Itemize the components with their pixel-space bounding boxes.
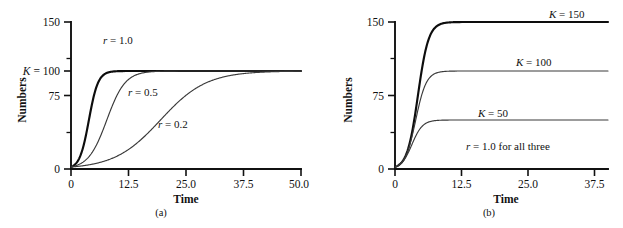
- x-ticklabel-12.5-b: 12.5: [451, 178, 471, 190]
- x-axis-title-a: Time: [173, 193, 198, 205]
- x-ticklabel-0-a: 0: [68, 178, 74, 190]
- curve-label-k-100: K = 100: [515, 56, 552, 68]
- y-ticklabel-0-b: 0: [378, 163, 384, 175]
- x-ticklabel-37.5-b: 37.5: [584, 178, 604, 190]
- x-ticklabel-25-a: 25.0: [176, 178, 196, 190]
- x-ticklabel-12.5-a: 12.5: [118, 178, 138, 190]
- x-ticklabel-37.5-a: 37.5: [233, 178, 253, 190]
- panel-a-plot: 0 75 150 K = 100 0 12.5 25.0 37.5 50.0 T…: [0, 0, 311, 228]
- y-ticklabel-150-a: 150: [43, 16, 61, 28]
- curve-label-r-0.5: r = 0.5: [128, 86, 158, 98]
- curve-label-k-50: K = 50: [477, 107, 509, 119]
- x-ticklabel-0-b: 0: [392, 178, 398, 190]
- x-axis-title-b: Time: [493, 193, 518, 205]
- k-level-label-a: K = 100: [22, 65, 60, 77]
- curve-label-k-150: K = 150: [548, 8, 585, 20]
- curve-label-r-0.2: r = 0.2: [158, 118, 188, 130]
- panel-b: 0 75 150 0 12.5 25.0 37.5 Time Numbers K…: [311, 0, 623, 228]
- y-ticklabel-0-a: 0: [54, 163, 60, 175]
- x-ticklabel-25-b: 25.0: [518, 178, 538, 190]
- curve-label-r-1.0: r = 1.0: [103, 34, 133, 46]
- rate-note-b: r = 1.0 for all three: [466, 140, 550, 152]
- panel-caption-a: (a): [155, 207, 167, 219]
- y-axis-title-a: Numbers: [16, 77, 28, 123]
- panel-a: 0 75 150 K = 100 0 12.5 25.0 37.5 50.0 T…: [0, 0, 311, 228]
- panel-b-plot: 0 75 150 0 12.5 25.0 37.5 Time Numbers K…: [311, 0, 623, 228]
- x-ticklabel-50-a: 50.0: [289, 178, 309, 190]
- curve-k-100: [395, 71, 608, 167]
- y-ticklabel-75-b: 75: [373, 90, 385, 102]
- y-axis-title-b: Numbers: [342, 77, 354, 123]
- y-ticklabel-150-b: 150: [367, 16, 385, 28]
- y-ticklabel-75-a: 75: [49, 90, 61, 102]
- logistic-growth-figure: 0 75 150 K = 100 0 12.5 25.0 37.5 50.0 T…: [0, 0, 623, 228]
- panel-caption-b: (b): [483, 207, 496, 219]
